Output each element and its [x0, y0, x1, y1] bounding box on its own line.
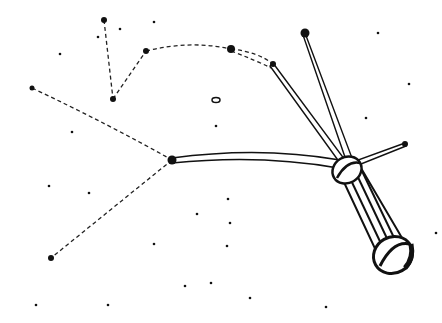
probe-body [328, 151, 420, 280]
dust-star [119, 28, 122, 31]
star-node [101, 17, 107, 23]
dust-star [226, 245, 229, 248]
dust-star [227, 198, 230, 201]
star-node [301, 29, 310, 38]
constellation-illustration [0, 0, 442, 323]
star-node [227, 45, 235, 53]
dust-star [71, 131, 74, 134]
small-ring-icon [212, 98, 220, 103]
dust-star [229, 222, 232, 225]
dust-star [88, 192, 91, 195]
dashed-line [32, 88, 172, 160]
dashed-line [231, 49, 273, 64]
dust-star [153, 243, 156, 246]
dust-star [210, 282, 213, 285]
star-node [30, 86, 35, 91]
dashed-line [113, 51, 146, 99]
dust-star [97, 36, 100, 39]
dust-star [107, 304, 110, 307]
dashed-line [231, 51, 271, 68]
dust-star [325, 306, 328, 309]
dust-star [59, 53, 62, 56]
star-node [48, 255, 54, 261]
dust-star [249, 297, 252, 300]
probe-rays [172, 33, 406, 168]
dust-star [48, 185, 51, 188]
star-node [168, 156, 177, 165]
dust-star [215, 125, 218, 128]
constellation-lines [32, 20, 273, 258]
dust-star [153, 21, 156, 24]
dashed-line [146, 45, 231, 51]
constellation-stars [30, 17, 409, 261]
dust-star [35, 304, 38, 307]
star-node [270, 61, 276, 67]
dust-star [435, 232, 438, 235]
dashed-line [104, 20, 113, 99]
dust-star [365, 117, 368, 120]
dust-star [196, 213, 199, 216]
star-node [143, 48, 149, 54]
star-node [402, 141, 408, 147]
dust-star [184, 285, 187, 288]
dust-star [377, 32, 380, 35]
dust-star [408, 83, 411, 86]
star-node [110, 96, 116, 102]
